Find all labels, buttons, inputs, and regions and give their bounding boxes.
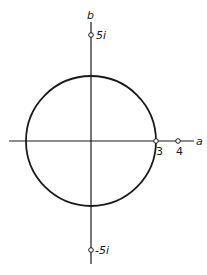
point-minus-5i	[89, 248, 94, 253]
axis-label-b: b	[87, 9, 94, 22]
point-4	[176, 139, 181, 144]
label-4: 4	[176, 145, 183, 158]
complex-plane-diagram: b a 5i -5i 3 4	[0, 0, 207, 275]
label-5i: 5i	[96, 29, 106, 42]
label-3: 3	[156, 145, 163, 158]
axis-label-a: a	[196, 135, 203, 148]
point-3	[154, 139, 159, 144]
point-5i	[89, 33, 94, 38]
label-minus-5i: -5i	[95, 244, 109, 257]
